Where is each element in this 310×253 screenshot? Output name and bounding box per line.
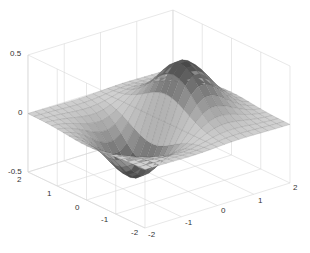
y-tick-1: 1 — [47, 190, 51, 198]
z-tick-0.5: 0.5 — [10, 50, 21, 58]
x-tick-2: 2 — [293, 184, 297, 192]
y-tick-neg1: -1 — [101, 216, 108, 224]
x-tick-neg2: -2 — [148, 231, 155, 239]
x-tick-0: 0 — [221, 207, 225, 215]
y-tick-2: 2 — [17, 176, 21, 184]
x-tick-neg1: -1 — [185, 219, 192, 227]
y-tick-0: 0 — [75, 204, 79, 212]
x-tick-1: 1 — [258, 197, 262, 205]
y-tick-neg2: -2 — [131, 229, 138, 237]
z-tick-0: 0 — [18, 109, 22, 117]
surface-plot — [0, 0, 310, 253]
